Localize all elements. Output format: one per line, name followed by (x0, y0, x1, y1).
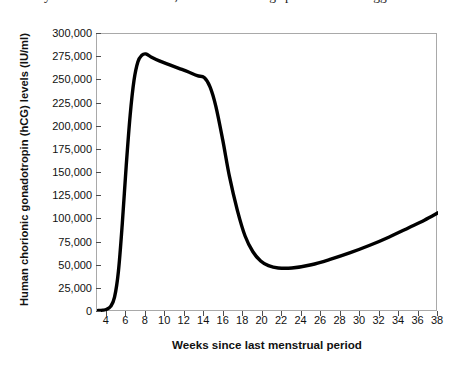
x-tick-mark (437, 311, 438, 316)
y-tick-mark (96, 195, 101, 196)
y-tick-label: 25,000 (6, 282, 92, 294)
x-tick-mark (301, 311, 302, 316)
hcg-levels-chart-figure: Human chorionic gonadotropin (hCG) level… (0, 14, 461, 370)
y-tick-label: 250,000 (6, 73, 92, 85)
y-tick-mark (96, 56, 101, 57)
y-tick-label: 200,000 (6, 120, 92, 132)
x-tick-mark (262, 311, 263, 316)
x-axis-title: Weeks since last menstrual period (96, 338, 438, 351)
y-tick-mark (96, 172, 101, 173)
x-tick-mark (281, 311, 282, 316)
y-tick-mark (96, 126, 101, 127)
y-tick-label: 300,000 (6, 27, 92, 39)
x-tick-mark (398, 311, 399, 316)
x-tick-mark (184, 311, 185, 316)
y-tick-mark (96, 242, 101, 243)
y-tick-mark (96, 288, 101, 289)
y-tick-mark (96, 311, 101, 312)
y-tick-label: 275,000 (6, 50, 92, 62)
x-tick-mark (125, 311, 126, 316)
y-tick-label: 100,000 (6, 212, 92, 224)
x-tick-mark (359, 311, 360, 316)
chart-line-svg (97, 34, 438, 312)
y-tick-mark (96, 79, 101, 80)
x-tick-mark (418, 311, 419, 316)
x-tick-mark (145, 311, 146, 316)
x-tick-mark (242, 311, 243, 316)
y-tick-label: 75,000 (6, 236, 92, 248)
hcg-curve-path (97, 54, 438, 311)
y-tick-label: 150,000 (6, 166, 92, 178)
y-tick-label: 125,000 (6, 189, 92, 201)
x-tick-mark (340, 311, 341, 316)
y-tick-mark (96, 33, 101, 34)
caption-text: always occurs in the oviduct, where swim… (18, 0, 390, 4)
x-tick-mark (164, 311, 165, 316)
plot-area (96, 33, 437, 311)
y-tick-mark (96, 218, 101, 219)
y-tick-mark (96, 103, 101, 104)
x-tick-mark (223, 311, 224, 316)
x-tick-mark (320, 311, 321, 316)
y-tick-label: 175,000 (6, 143, 92, 155)
y-tick-mark (96, 149, 101, 150)
x-tick-mark (203, 311, 204, 316)
y-tick-label: 225,000 (6, 97, 92, 109)
x-axis-tick-labels: 468101214161820222426283032343638 (0, 314, 461, 334)
x-tick-mark (106, 311, 107, 316)
x-tick-mark (379, 311, 380, 316)
caption-strip: always occurs in the oviduct, where swim… (0, 0, 461, 14)
y-tick-label: 50,000 (6, 259, 92, 271)
y-tick-mark (96, 265, 101, 266)
y-axis-tick-labels: 025,00050,00075,000100,000125,000150,000… (0, 33, 92, 311)
